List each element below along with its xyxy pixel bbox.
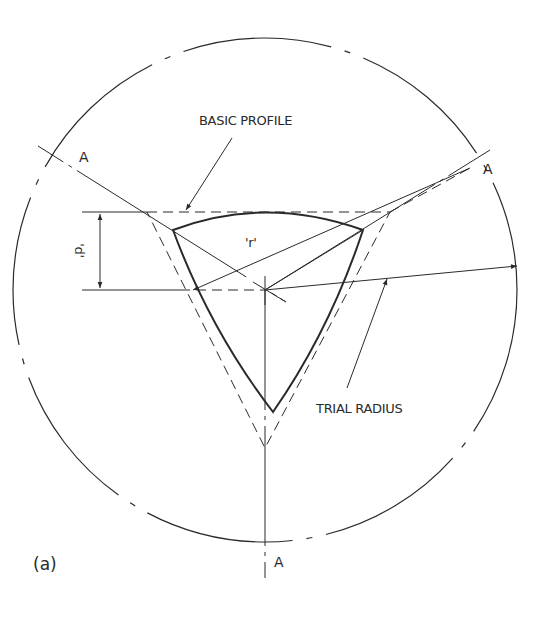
basic-profile-leader [186, 138, 232, 210]
r-right-line [390, 168, 470, 212]
trial-radius-leader [347, 279, 387, 388]
r-line [193, 168, 470, 290]
d-dimension-label: 'd' [73, 243, 86, 258]
section-mark-a-left: A [79, 150, 89, 164]
profile-construction-diagram [0, 0, 543, 618]
trial-radius-line [265, 266, 517, 290]
r-label: 'r' [245, 236, 257, 249]
trial-radius-label: TRIAL RADIUS [316, 402, 403, 415]
figure-label: (a) [33, 556, 57, 573]
cross-mark-diag [253, 282, 286, 302]
rounded-profile [173, 213, 363, 413]
basic-profile-label: BASIC PROFILE [199, 114, 292, 127]
radius-line-top-right [265, 230, 363, 290]
centerline-left [38, 146, 286, 302]
section-mark-a-right: A [483, 162, 493, 176]
section-mark-a-bottom: A [274, 555, 284, 569]
